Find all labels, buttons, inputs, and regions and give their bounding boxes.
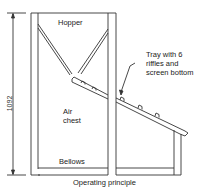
hopper-label: Hopper (58, 19, 83, 28)
bellows-label: Bellows (59, 158, 85, 167)
bellows-base (38, 168, 174, 175)
left-post (31, 13, 40, 175)
outer-tray (116, 97, 188, 136)
right-leg (174, 130, 181, 175)
inner-tray (72, 77, 108, 99)
hopper-walls (38, 24, 108, 75)
caption: Operating principle (73, 179, 136, 188)
machine-drawing (0, 0, 205, 191)
tray-label-line3: screen bottom (146, 69, 194, 78)
center-post (108, 13, 116, 175)
operating-principle-diagram: Hopper Air chest Bellows Tray with 6 rif… (0, 0, 205, 191)
tray-leader (120, 63, 136, 95)
dimension-label: 1092 (6, 93, 13, 115)
air-chest-label-line2: chest (63, 117, 81, 126)
